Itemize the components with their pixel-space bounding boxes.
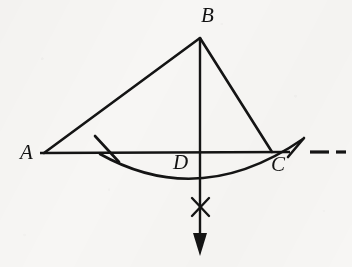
downward-arrowhead [193,233,207,256]
vertex-label-a: A [20,142,33,163]
side-BC-line [200,38,272,152]
vertex-label-b: B [201,5,214,26]
base-AC-line [40,152,290,153]
vertex-label-d: D [173,152,188,173]
figure-canvas [0,0,352,267]
side-AB-line [44,38,200,153]
geometry-figure: A B D C [0,0,352,267]
vertex-label-c: C [271,154,285,175]
